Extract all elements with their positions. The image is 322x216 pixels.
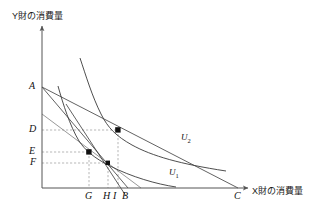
budget-line-AC [42,87,238,188]
point-substitution [106,161,110,165]
axis-label-C: C [234,190,241,201]
axis-label-E: E [29,145,35,156]
point-on-U2 [115,127,120,132]
axis-label-G: G [85,190,92,201]
indifference-curve-U1 [58,86,176,187]
axis-label-H: H [103,190,110,201]
indifference-curve-U2 [80,58,226,171]
axis-label-A: A [29,80,35,91]
axis-label-I: I [113,190,116,201]
curve-label-U1-sub: 1 [176,172,179,179]
axis-label-D: D [29,123,36,134]
y-axis-title: Y財の消費量 [12,9,63,22]
curve-label-U2-sub: 2 [188,137,191,144]
economics-indifference-curve-figure: Y財の消費量 X財の消費量 A D E F G H I B C U2 U1 [0,0,322,216]
steep-line-through-B [66,104,126,196]
curve-label-U2: U2 [181,132,191,144]
axis-label-B: B [122,190,128,201]
curve-label-U1: U1 [169,167,179,179]
axis-label-F: F [30,156,36,167]
point-on-U1 [86,149,91,154]
budget-line-AB [42,87,128,188]
x-axis-title: X財の消費量 [252,184,303,197]
